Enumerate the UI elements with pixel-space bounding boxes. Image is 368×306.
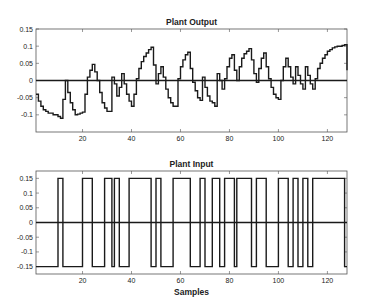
y-tick-label: -0.05: [17, 234, 33, 241]
y-tick-label: -0.15: [17, 263, 33, 270]
x-tick-label: 20: [79, 277, 87, 284]
y-tick-label: -0.05: [17, 94, 33, 101]
x-tick-label: 40: [128, 277, 136, 284]
y-tick-label: 0.1: [23, 190, 33, 197]
y-tick-label: 0.05: [19, 204, 33, 211]
plant-input-title: Plant Input: [170, 159, 214, 169]
x-tick-label: 120: [322, 277, 334, 284]
x-tick-label: 100: [273, 135, 285, 142]
x-tick-label: 60: [177, 277, 185, 284]
x-tick-label: 60: [177, 135, 185, 142]
x-tick-label: 40: [128, 135, 136, 142]
y-tick-label: -0.1: [21, 248, 33, 255]
y-tick-label: 0: [29, 219, 33, 226]
y-tick-label: 0.15: [19, 26, 33, 33]
x-tick-label: 20: [79, 135, 87, 142]
plant-output-title: Plant Output: [166, 17, 217, 27]
plant-output-plot: Plant Output 0.150.10.050-0.05-0.1 20406…: [17, 17, 347, 142]
y-tick-label: -0.1: [21, 111, 33, 118]
x-tick-label: 120: [322, 135, 334, 142]
y-tick-label: 0.1: [23, 43, 33, 50]
y-tick-label: 0: [29, 77, 33, 84]
x-tick-label: 80: [226, 277, 234, 284]
y-tick-label: 0.15: [19, 175, 33, 182]
x-tick-label: 80: [226, 135, 234, 142]
figure: Plant Output 0.150.10.050-0.05-0.1 20406…: [0, 0, 368, 306]
x-axis-label: Samples: [174, 287, 209, 297]
x-tick-label: 100: [273, 277, 285, 284]
y-tick-label: 0.05: [19, 60, 33, 67]
plant-input-plot: Plant Input 0.150.10.050-0.05-0.1-0.15 2…: [17, 159, 347, 297]
